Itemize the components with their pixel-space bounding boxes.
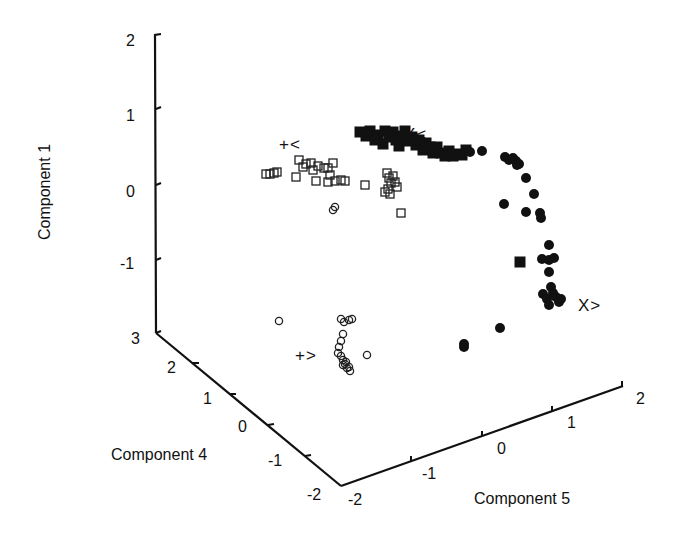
data-point	[381, 188, 389, 196]
left-depth-tick-0: 0	[238, 418, 247, 436]
series-filled-circle	[459, 146, 566, 352]
data-point	[515, 257, 526, 268]
series-filled-square	[355, 126, 526, 268]
series-open-square	[262, 156, 405, 217]
data-point	[292, 173, 300, 181]
data-point	[499, 199, 509, 209]
scatter-3d-plot	[0, 0, 686, 541]
annotation-x-greater: X>	[578, 296, 601, 316]
data-point	[361, 181, 369, 189]
data-point	[312, 177, 320, 185]
data-point	[536, 213, 546, 223]
data-point	[363, 351, 370, 358]
data-point	[521, 173, 531, 183]
annotation-plus-less: +<	[279, 135, 301, 155]
data-point	[465, 147, 475, 157]
data-points	[262, 126, 566, 375]
right-depth-axis-title: Component 5	[474, 490, 570, 508]
data-point	[275, 317, 282, 324]
data-point	[544, 300, 554, 310]
vertical-tick-0: 0	[126, 183, 135, 201]
data-point	[397, 209, 405, 217]
left-depth-tick-neg2: -2	[307, 486, 321, 504]
data-point	[556, 294, 566, 304]
left-depth-axis-title: Component 4	[111, 446, 207, 464]
data-point	[329, 159, 337, 167]
data-point	[459, 342, 469, 352]
right-depth-tick-neg2: -2	[348, 491, 362, 509]
data-point	[529, 189, 539, 199]
data-point	[477, 146, 487, 156]
data-point	[512, 160, 522, 170]
vertical-axis-title: Component 1	[36, 144, 54, 240]
data-point	[339, 330, 346, 337]
left-depth-tick-1: 1	[203, 390, 212, 408]
vertical-tick-neg1: -1	[120, 255, 134, 273]
right-depth-tick-2: 2	[636, 390, 645, 408]
series-open-circle	[275, 203, 370, 374]
data-point	[495, 323, 505, 333]
right-depth-tick-1: 1	[567, 414, 576, 432]
left-depth-tick-3: 3	[131, 330, 140, 348]
data-point	[383, 169, 391, 177]
annotation-plus-greater: +>	[295, 346, 317, 366]
right-depth-tick-0: 0	[497, 440, 506, 458]
data-point	[549, 253, 559, 263]
right-depth-tick-neg1: -1	[422, 465, 436, 483]
data-point	[521, 207, 531, 217]
vertical-tick-2: 2	[126, 32, 135, 50]
data-point	[544, 267, 554, 277]
data-point	[544, 240, 554, 250]
left-depth-tick-neg1: -1	[268, 452, 282, 470]
left-depth-tick-2: 2	[167, 359, 176, 377]
annotation-x-less: X<	[404, 125, 427, 145]
vertical-tick-1: 1	[126, 107, 135, 125]
